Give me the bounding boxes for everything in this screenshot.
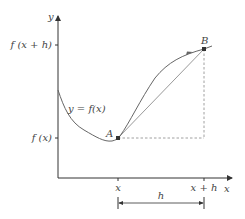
secant-line [118,49,204,138]
function-curve [58,46,212,141]
point-b-label: B [200,35,208,46]
point-a-label: A [105,128,113,139]
difference-quotient-diagram: y x f (x + h) f (x) x x + h y = f(x) A B… [0,0,245,219]
point-a-marker [116,136,120,140]
point-b-marker [202,47,206,51]
y-axis-label: y [47,11,54,22]
y-tick-label-fx: f (x) [31,132,52,143]
curve-label: y = f(x) [67,103,106,114]
interval-label: h [158,190,164,201]
y-tick-label-fxh: f (x + h) [10,39,53,50]
x-tick-label-x: x [115,182,121,193]
x-tick-label-xh: x + h [191,182,218,193]
x-axis-label: x [224,183,230,194]
